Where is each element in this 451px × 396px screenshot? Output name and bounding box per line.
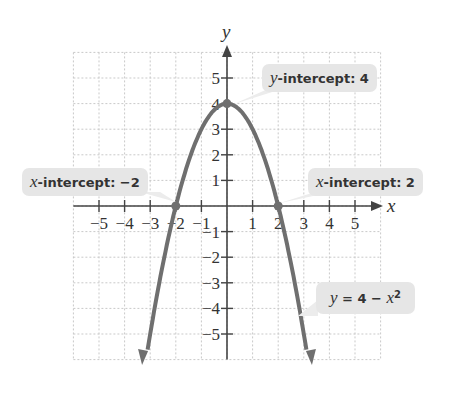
x-axis-label: x: [386, 195, 396, 216]
y-axis-label: y: [220, 21, 231, 42]
eq-y: y: [330, 288, 338, 307]
x-intercept-right-callout: x-intercept: 2: [308, 168, 423, 196]
svg-text:−3: −3: [202, 274, 220, 293]
parabola-chart: −5−4−3−2−11234554321−1−2−3−4−5 x y: [0, 0, 451, 396]
svg-text:3: 3: [212, 120, 221, 139]
callout-text: -intercept: 4: [278, 71, 369, 86]
svg-text:−5: −5: [202, 325, 220, 344]
eq-sup: 2: [394, 289, 401, 300]
svg-text:4: 4: [325, 214, 334, 233]
callout-var: x: [316, 172, 324, 191]
svg-text:−1: −1: [202, 223, 220, 242]
eq-mid: = 4 −: [338, 291, 387, 306]
svg-text:3: 3: [300, 214, 309, 233]
svg-text:2: 2: [212, 146, 221, 165]
equation-callout: y = 4 − x2: [316, 282, 415, 314]
svg-text:−3: −3: [141, 214, 159, 233]
callout-var: y: [270, 68, 278, 87]
x-intercept-left-callout: x-intercept: −2: [22, 168, 148, 196]
svg-text:1: 1: [212, 171, 221, 190]
svg-text:−5: −5: [90, 214, 108, 233]
eq-x: x: [386, 288, 394, 307]
svg-text:1: 1: [248, 214, 257, 233]
svg-text:−4: −4: [202, 299, 221, 318]
callout-text: -intercept: −2: [38, 175, 140, 190]
callout-text: -intercept: 2: [324, 175, 415, 190]
svg-text:−2: −2: [202, 248, 220, 267]
svg-text:5: 5: [212, 69, 221, 88]
y-intercept-callout: y-intercept: 4: [262, 64, 377, 92]
svg-text:−4: −4: [116, 214, 135, 233]
svg-text:5: 5: [351, 214, 360, 233]
callout-var: x: [30, 172, 38, 191]
